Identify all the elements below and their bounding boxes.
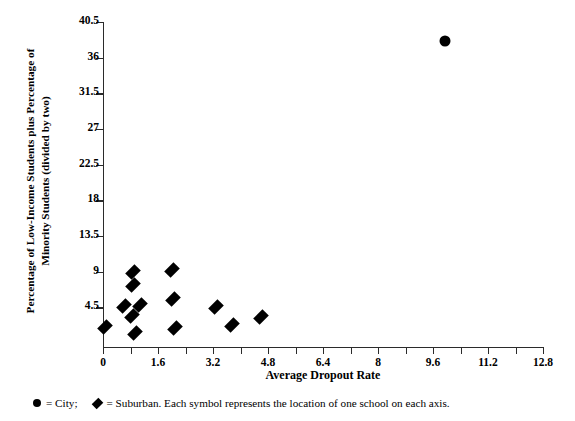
- x-axis-minor-tick: [296, 347, 297, 354]
- data-point-suburban: [253, 309, 269, 325]
- x-axis-minor-tick: [406, 347, 407, 354]
- x-axis-tick-label: 11.2: [478, 356, 498, 368]
- data-point-city: [440, 36, 451, 47]
- y-axis-tick-label: 40.5: [79, 14, 99, 26]
- data-point-suburban: [97, 319, 113, 335]
- x-axis-minor-tick: [186, 347, 187, 354]
- x-axis-tick-label: 3.2: [206, 356, 220, 368]
- x-axis-minor-tick: [241, 347, 242, 354]
- x-axis-tick: [378, 347, 379, 354]
- x-axis-tick: [433, 347, 434, 354]
- scatter-plot-figure: Percentage of Low-Income Students plus P…: [0, 0, 575, 421]
- y-axis-title: Percentage of Low-Income Students plus P…: [12, 8, 64, 353]
- data-point-suburban: [224, 317, 240, 333]
- y-axis-line: [103, 22, 104, 347]
- data-point-suburban: [164, 262, 180, 278]
- y-axis-tick-label: 31.5: [79, 85, 99, 97]
- x-axis-tick-label: 0: [100, 356, 106, 368]
- y-axis-tick-label: 13.5: [79, 228, 99, 240]
- x-axis-tick-label: 9.6: [426, 356, 440, 368]
- x-axis-tick-label: 12.8: [533, 356, 553, 368]
- data-point-suburban: [209, 299, 225, 315]
- y-axis-tick-label: 18: [88, 192, 100, 204]
- x-axis-minor-tick: [461, 347, 462, 354]
- y-axis-tick-label: 4.5: [85, 299, 99, 311]
- legend-city-circle-icon: [33, 399, 41, 407]
- y-axis-tick-label: 9: [93, 264, 99, 276]
- data-point-suburban: [125, 277, 141, 293]
- x-axis-tick: [268, 347, 269, 354]
- x-axis-tick-label: 1.6: [151, 356, 165, 368]
- legend-suburban-label: = Suburban. Each symbol represents the l…: [107, 397, 450, 409]
- x-axis-tick: [543, 347, 544, 354]
- legend-suburban-diamond-icon: [91, 397, 103, 409]
- x-axis-minor-tick: [351, 347, 352, 354]
- x-axis-tick: [323, 347, 324, 354]
- x-axis-tick-label: 8: [375, 356, 381, 368]
- y-axis-tick-label: 36: [88, 50, 100, 62]
- y-axis-title-line1: Percentage of Low-Income Students plus P…: [23, 48, 38, 313]
- x-axis-tick: [158, 347, 159, 354]
- x-axis-minor-tick: [516, 347, 517, 354]
- x-axis-minor-tick: [131, 347, 132, 354]
- y-axis-title-line2: Minority Students (divided by two): [38, 48, 53, 313]
- legend-city-label: = City;: [46, 397, 78, 409]
- x-axis-title: Average Dropout Rate: [103, 368, 543, 383]
- data-point-suburban: [167, 320, 183, 336]
- y-axis-tick-label: 27: [88, 121, 100, 133]
- y-axis-tick-label: 22.5: [79, 157, 99, 169]
- legend-caption: = City; = Suburban. Each symbol represen…: [33, 397, 450, 409]
- x-axis-tick-label: 4.8: [261, 356, 275, 368]
- plot-area: 4.5913.51822.52731.53640.5 01.63.24.86.4…: [103, 22, 543, 347]
- x-axis-tick: [103, 347, 104, 354]
- data-point-suburban: [166, 291, 182, 307]
- data-point-suburban: [127, 325, 143, 341]
- x-axis-tick: [213, 347, 214, 354]
- x-axis-tick-label: 6.4: [316, 356, 330, 368]
- x-axis-tick: [488, 347, 489, 354]
